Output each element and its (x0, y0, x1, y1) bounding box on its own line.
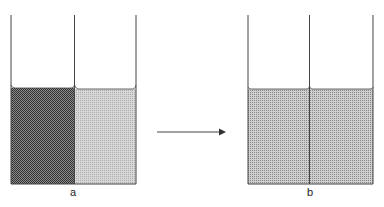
container-a (11, 15, 136, 184)
right-arrow-icon (157, 129, 226, 136)
dark-solution (11, 88, 74, 184)
diffusion-diagram (0, 0, 384, 207)
label-b: b (307, 187, 313, 198)
container-b (248, 15, 373, 184)
light-solution (75, 89, 136, 184)
mixed-solution (248, 89, 373, 184)
label-a: a (70, 187, 76, 198)
